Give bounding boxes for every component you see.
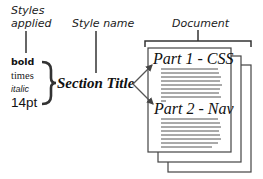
curly-brace [42,62,56,104]
document-bracket [145,41,251,47]
style-italic: italic [11,84,30,94]
styles-applied-label-line1: Styles [11,4,45,17]
style-name-label: Style name [72,17,135,30]
part1-title: Part 1 - CSS [152,50,233,67]
style-diagram: Styles applied Style name Document bold … [0,0,263,179]
style-bold: bold [11,56,34,67]
style-times: times [11,70,34,81]
section-title: Section Title [57,75,135,91]
styles-applied-label-line2: applied [11,17,53,30]
document-label: Document [172,17,230,30]
style-size: 14pt [11,95,38,110]
part2-title: Part 2 - Nav [153,100,234,117]
